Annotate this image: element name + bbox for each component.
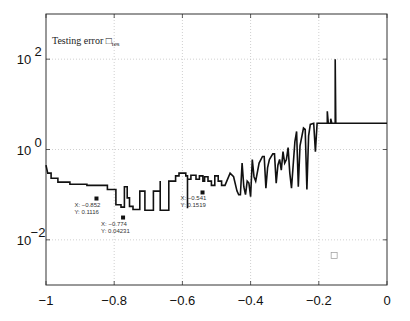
y-tick-exponent: 2 [34,44,41,59]
x-tick-label: −0.8 [101,293,127,308]
x-tick-label: −0.6 [170,293,196,308]
y-tick-labels: 10−2100102 [17,44,46,248]
empty-square-marker [331,252,337,258]
testing-error-line [46,59,387,210]
x-tick-label: −0.2 [306,293,332,308]
data-tip-y: Y: 0.04231 [101,228,130,234]
chart: −1−0.8−0.6−0.4−0.20 10−2100102 X: −0.852… [0,0,410,321]
data-tip-marker[interactable] [201,190,205,194]
data-tip-marker[interactable] [94,197,98,201]
data-tip-x: X: −0.774 [101,221,128,227]
data-tip-marker[interactable] [121,216,125,220]
y-tick-label: 10 [17,143,31,158]
y-tick-exponent: 0 [34,135,41,150]
x-tick-labels: −1−0.8−0.6−0.4−0.20 [39,293,391,308]
data-tip-x: X: −0.541 [181,195,208,201]
y-tick-label: 10 [17,233,31,248]
x-tick-label: −1 [39,293,54,308]
data-tips: X: −0.852Y: 0.1116X: −0.774Y: 0.04231X: … [74,190,207,233]
y-tick-exponent: −2 [31,225,46,240]
legend: Testing error □tes [52,35,120,48]
grid-lines [46,14,387,285]
y-tick-label: 10 [17,52,31,67]
x-tick-label: 0 [383,293,390,308]
data-tip-y: Y: 0.1116 [74,209,99,215]
legend-label: Testing error □tes [52,35,120,48]
data-tip-x: X: −0.852 [74,202,101,208]
data-tip-y: Y: 0.1519 [181,202,207,208]
annotations [331,252,337,258]
x-tick-label: −0.4 [238,293,264,308]
